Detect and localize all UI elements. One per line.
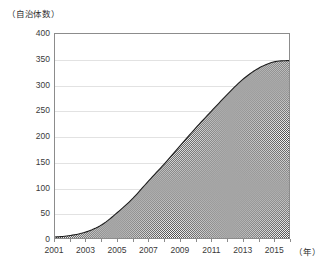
area-chart: （自治体数） 400350300250200150100500 20012003… bbox=[0, 0, 325, 272]
x-axis-tickmark bbox=[180, 239, 181, 242]
x-axis-tickmark bbox=[274, 239, 275, 242]
y-axis-tick-labels: 400350300250200150100500 bbox=[0, 0, 50, 272]
x-axis-tick-label: 2009 bbox=[170, 245, 189, 255]
x-axis-tick-label: 2011 bbox=[202, 245, 220, 255]
y-axis-tick-label: 150 bbox=[4, 157, 50, 167]
x-axis-tick-label: 2005 bbox=[107, 245, 126, 255]
series-area-municipality-count bbox=[55, 34, 289, 238]
x-axis-tickmark bbox=[290, 239, 291, 242]
x-axis-tickmark bbox=[54, 239, 55, 242]
y-axis-tick-label: 200 bbox=[4, 131, 50, 141]
x-axis-tickmark bbox=[70, 239, 71, 242]
x-axis-tick-label: 2013 bbox=[233, 245, 252, 255]
x-axis-tickmark bbox=[196, 239, 197, 242]
x-axis-tickmark bbox=[101, 239, 102, 242]
plot-area bbox=[54, 33, 290, 239]
x-axis-tickmark bbox=[227, 239, 228, 242]
x-axis-tickmark bbox=[148, 239, 149, 242]
y-axis-tick-label: 100 bbox=[4, 183, 50, 193]
x-axis-tick-label: 2007 bbox=[139, 245, 158, 255]
x-axis-unit-label: （年） bbox=[294, 245, 321, 257]
x-axis-tick-label: 2015 bbox=[265, 245, 284, 255]
y-axis-tick-label: 400 bbox=[4, 28, 50, 38]
x-axis-tick-label: 2001 bbox=[45, 245, 64, 255]
y-axis-tick-label: 250 bbox=[4, 105, 50, 115]
x-axis-tick-label: 2003 bbox=[76, 245, 95, 255]
x-axis-tickmark bbox=[259, 239, 260, 242]
x-axis-tickmark bbox=[85, 239, 86, 242]
y-axis-tick-label: 0 bbox=[4, 234, 50, 244]
area-fill bbox=[55, 61, 289, 238]
x-axis-tickmark bbox=[164, 239, 165, 242]
x-axis-tickmark bbox=[117, 239, 118, 242]
y-axis-tick-label: 50 bbox=[4, 208, 50, 218]
y-axis-tick-label: 300 bbox=[4, 80, 50, 90]
x-axis-tickmark bbox=[211, 239, 212, 242]
x-axis-tickmark bbox=[243, 239, 244, 242]
x-axis-tickmark bbox=[133, 239, 134, 242]
y-axis-tick-label: 350 bbox=[4, 54, 50, 64]
